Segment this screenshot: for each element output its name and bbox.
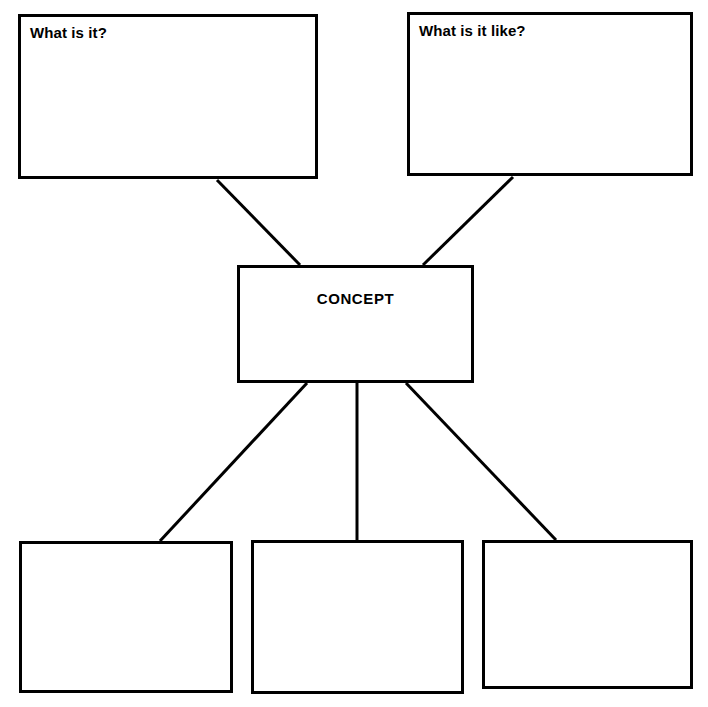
box-example-two[interactable] [251, 540, 464, 694]
box-what-is-it[interactable]: What is it? [18, 14, 318, 179]
box-concept-label: CONCEPT [240, 290, 471, 307]
box-what-is-it-like[interactable]: What is it like? [407, 12, 693, 176]
connector-concept-to-what-is-it [217, 180, 300, 265]
box-example-three[interactable] [482, 540, 693, 689]
box-what-is-it-label: What is it? [30, 24, 107, 41]
connector-concept-to-example-three [406, 383, 556, 540]
box-example-one[interactable] [19, 541, 233, 693]
connector-concept-to-what-is-it-like [423, 177, 513, 265]
concept-map-canvas: What is it? What is it like? CONCEPT [0, 0, 708, 707]
connector-concept-to-example-one [160, 383, 307, 541]
box-what-is-it-like-label: What is it like? [419, 22, 526, 39]
box-concept[interactable]: CONCEPT [237, 265, 474, 383]
